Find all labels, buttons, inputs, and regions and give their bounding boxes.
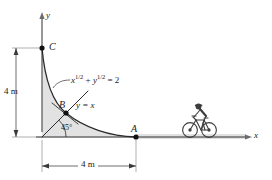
equation-exp-x: 1/2 [75, 73, 83, 80]
point-marker-B [63, 110, 68, 115]
dimension-label-vertical: 4 m [4, 87, 18, 96]
equation-plus: + [86, 75, 91, 85]
point-marker-C [39, 45, 44, 50]
cyclist-icon [183, 104, 217, 138]
equation-equals: = 2 [107, 75, 119, 85]
dim-arrow-left-icon [42, 164, 49, 169]
x-axis-label: x [254, 131, 258, 140]
point-label-C: C [49, 42, 56, 52]
figure-canvas [0, 0, 272, 180]
y-axis-label: y [46, 11, 50, 20]
y-axis-arrow-icon [39, 12, 44, 19]
equation-leader-line [53, 80, 70, 88]
curve-equation-label: x1/2 + y1/2 = 2 [71, 74, 119, 85]
dim-arrow-down-icon [14, 130, 19, 137]
x-axis-arrow-icon [245, 134, 252, 139]
dimension-label-horizontal: 4 m [78, 160, 98, 169]
dim-arrow-right-icon [129, 164, 136, 169]
line-equation-label: y = x [76, 101, 95, 110]
point-label-A: A [131, 124, 137, 134]
curve-shading [42, 48, 136, 137]
point-label-B: B [59, 100, 65, 110]
mechanics-figure: y x C B A x1/2 + y1/2 = 2 y = x 45° 4 m … [0, 0, 272, 180]
equation-exp-y: 1/2 [97, 73, 105, 80]
point-marker-A [133, 134, 138, 139]
angle-label-45: 45° [61, 124, 72, 132]
dim-arrow-up-icon [14, 48, 19, 55]
